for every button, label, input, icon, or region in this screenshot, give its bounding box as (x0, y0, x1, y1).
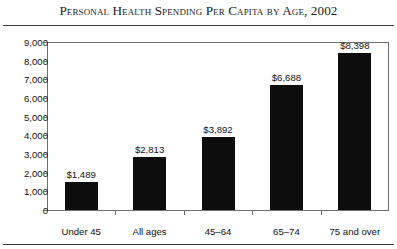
bar (133, 157, 166, 210)
y-axis-tick-mark (43, 79, 47, 80)
bar-value-label: $3,892 (178, 124, 258, 135)
page-title: Personal Health Spending Per Capita by A… (0, 3, 397, 19)
x-axis-category-label: 75 and over (310, 226, 397, 237)
x-axis-tick-mark (184, 210, 185, 215)
y-axis-tick-mark (43, 135, 47, 136)
y-axis-tick-mark (43, 98, 47, 99)
y-axis-tick-mark (43, 191, 47, 192)
bar (65, 182, 98, 210)
bar-value-label: $6,688 (246, 72, 326, 83)
y-axis-tick-mark (43, 210, 47, 211)
bar-value-label: $8,398 (315, 40, 395, 51)
x-axis-tick-mark (321, 210, 322, 215)
x-axis-tick-mark (115, 210, 116, 215)
title-divider (3, 25, 394, 26)
chart-page: Personal Health Spending Per Capita by A… (0, 0, 397, 249)
bar-value-label: $1,489 (41, 169, 121, 180)
y-axis-tick-mark (43, 117, 47, 118)
y-axis-tick-mark (43, 154, 47, 155)
x-axis-tick-mark (252, 210, 253, 215)
title-area: Personal Health Spending Per Capita by A… (0, 0, 397, 27)
bottom-divider (3, 244, 394, 245)
bar (202, 137, 235, 210)
y-axis-tick-mark (43, 61, 47, 62)
bar (338, 53, 371, 210)
y-axis-tick-mark (43, 42, 47, 43)
bar (270, 85, 303, 210)
bar-value-label: $2,813 (110, 144, 190, 155)
